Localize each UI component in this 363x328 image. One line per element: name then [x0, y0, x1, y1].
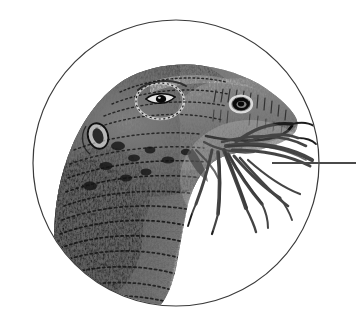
- lizard-head-figure: [0, 0, 363, 328]
- figure-container: lizard head in profile feeding on plant …: [0, 0, 363, 328]
- nostril: [230, 96, 252, 113]
- paper-tone: [180, 120, 320, 240]
